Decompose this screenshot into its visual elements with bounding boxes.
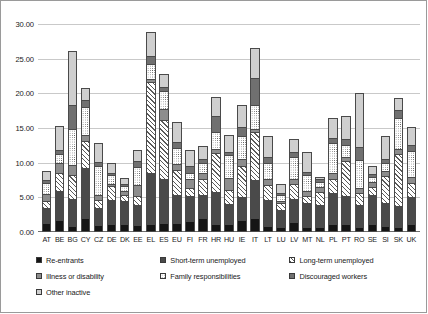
bar-segment-other_inactive [342, 117, 350, 139]
stacked-bar[interactable] [224, 135, 234, 232]
bar-segment-long_term_unemployed [108, 187, 116, 200]
stacked-bar[interactable] [355, 93, 365, 232]
legend-item-other-inactive[interactable]: Other inactive [36, 288, 164, 297]
bar-column-bg[interactable] [66, 24, 79, 232]
stacked-bar[interactable] [185, 150, 195, 232]
bar-column-hr[interactable] [209, 24, 222, 232]
bar-segment-other_inactive [43, 172, 51, 181]
stacked-bar[interactable] [42, 171, 52, 232]
bar-column-at[interactable] [40, 24, 53, 232]
bar-column-ee[interactable] [131, 24, 144, 232]
bar-column-fr[interactable] [196, 24, 209, 232]
stacked-bar[interactable] [159, 74, 169, 232]
stacked-bar[interactable] [68, 51, 78, 232]
bar-segment-other_inactive [212, 98, 220, 117]
legend-item-discouraged-workers[interactable]: Discouraged workers [289, 272, 406, 281]
bar-column-ie[interactable] [235, 24, 248, 232]
x-axis-tick-label-pl: PL [327, 233, 340, 246]
bar-column-sk[interactable] [392, 24, 405, 232]
bar-column-eu[interactable] [170, 24, 183, 232]
bar-column-hu[interactable] [222, 24, 235, 232]
stacked-bar[interactable] [172, 122, 182, 232]
bar-column-de[interactable] [105, 24, 118, 232]
bar-segment-short_term_unemployed [186, 197, 194, 222]
stacked-bar[interactable] [315, 177, 325, 232]
bar-segment-other_inactive [134, 151, 142, 162]
stacked-bar[interactable] [107, 163, 117, 232]
bar-column-el[interactable] [144, 24, 157, 232]
stacked-bar[interactable] [94, 143, 104, 232]
bar-segment-family_responsibilities [395, 119, 403, 150]
bar-segment-other_inactive [238, 106, 246, 128]
bar-column-si[interactable] [379, 24, 392, 232]
bar-segment-other_inactive [329, 119, 337, 138]
bar-column-dk[interactable] [118, 24, 131, 232]
bar-column-it[interactable] [249, 24, 262, 232]
bar-column-lv[interactable] [288, 24, 301, 232]
bar-segment-family_responsibilities [238, 137, 246, 160]
bar-segment-discouraged_workers [238, 128, 246, 138]
stacked-bar[interactable] [276, 184, 286, 232]
bar-column-nl[interactable] [314, 24, 327, 232]
stacked-bar[interactable] [341, 116, 351, 232]
bar-segment-other_inactive [251, 49, 259, 79]
bar-column-cz[interactable] [92, 24, 105, 232]
stacked-bar[interactable] [263, 136, 273, 232]
bar-segment-short_term_unemployed [290, 200, 298, 223]
stacked-bar[interactable] [394, 98, 404, 232]
stacked-bar[interactable] [211, 97, 221, 232]
legend-row-2: Illness or disability Family responsibil… [36, 268, 406, 284]
bar-column-pl[interactable] [327, 24, 340, 232]
legend-item-illness-or-disability[interactable]: Illness or disability [36, 272, 160, 281]
stacked-bar[interactable] [146, 32, 156, 232]
stacked-bar[interactable] [55, 126, 65, 232]
bar-segment-other_inactive [369, 167, 377, 175]
stacked-bar[interactable] [328, 118, 338, 232]
legend-item-re-entrants[interactable]: Re-entrants [36, 256, 160, 265]
bar-segment-other_inactive [225, 136, 233, 153]
bar-segment-long_term_unemployed [173, 171, 181, 195]
stacked-bar[interactable] [381, 136, 391, 232]
y-axis-tick-label: 25.00 [15, 54, 34, 63]
bar-segment-long_term_unemployed [225, 191, 233, 206]
bar-column-ro[interactable] [353, 24, 366, 232]
bar-column-be[interactable] [53, 24, 66, 232]
x-axis-tick-label-el: EL [144, 233, 157, 246]
legend-item-family-responsibilities[interactable]: Family responsibilities [160, 272, 289, 281]
stacked-bar[interactable] [198, 146, 208, 232]
legend-label-other-inactive: Other inactive [46, 288, 90, 297]
bar-segment-reentrants [277, 228, 285, 231]
stacked-bar[interactable] [250, 48, 260, 232]
stacked-bar[interactable] [289, 139, 299, 232]
bar-segment-reentrants [95, 226, 103, 231]
y-axis-labels: 0.005.0010.0015.0020.0025.0030.00 [0, 24, 38, 232]
bar-column-uk[interactable] [405, 24, 418, 232]
bar-segment-reentrants [238, 221, 246, 231]
stacked-bar[interactable] [368, 166, 378, 232]
stacked-bar[interactable] [407, 127, 417, 232]
bar-segment-short_term_unemployed [147, 174, 155, 225]
bar-segment-reentrants [329, 225, 337, 231]
bar-segment-reentrants [303, 228, 311, 231]
bar-column-lt[interactable] [262, 24, 275, 232]
stacked-bar[interactable] [81, 88, 91, 232]
stacked-bar[interactable] [133, 150, 143, 232]
stacked-bar[interactable] [120, 178, 130, 232]
bar-segment-reentrants [173, 224, 181, 231]
bar-column-pt[interactable] [340, 24, 353, 232]
bar-column-lu[interactable] [275, 24, 288, 232]
bar-segment-reentrants [316, 228, 324, 231]
bar-column-fi[interactable] [183, 24, 196, 232]
bar-column-es[interactable] [157, 24, 170, 232]
bar-segment-family_responsibilities [173, 149, 181, 165]
legend-item-short-term-unemployed[interactable]: Short-term unemployed [160, 256, 289, 265]
x-axis-tick-label-fr: FR [196, 233, 209, 246]
bar-column-cy[interactable] [79, 24, 92, 232]
bar-column-mt[interactable] [301, 24, 314, 232]
bar-column-se[interactable] [366, 24, 379, 232]
bar-segment-reentrants [408, 225, 416, 231]
legend-item-long-term-unemployed[interactable]: Long-term unemployed [289, 256, 406, 265]
stacked-bar[interactable] [302, 152, 312, 232]
stacked-bar[interactable] [237, 105, 247, 232]
bar-segment-other_inactive [82, 89, 90, 101]
